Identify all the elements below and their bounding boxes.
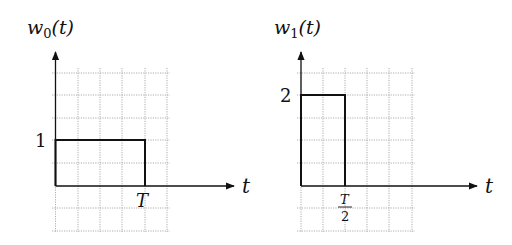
x-label-w1: t (485, 174, 494, 198)
panel-w1: w1(t) 2 T 2 t (274, 16, 494, 232)
x-label-w0: t (242, 174, 251, 198)
grid-w0 (52, 68, 170, 232)
y-tick-w0: 1 (35, 130, 46, 151)
y-label-w1: w1(t) (274, 16, 321, 41)
x-tick-w0: T (136, 190, 150, 211)
y-tick-w1: 2 (280, 85, 291, 106)
svg-text:T: T (340, 192, 350, 207)
y-label-w0: w0(t) (27, 16, 74, 41)
grid-w1 (297, 68, 415, 232)
figure: w0(t) 1 T t w1(t) 2 T (0, 0, 512, 245)
panel-w0: w0(t) 1 T t (27, 16, 251, 232)
svg-text:2: 2 (341, 209, 349, 224)
